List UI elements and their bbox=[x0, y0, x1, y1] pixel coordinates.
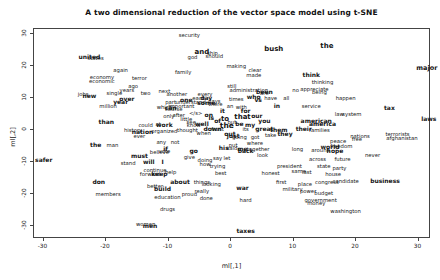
word-label: if bbox=[163, 146, 168, 152]
word-label: should bbox=[206, 55, 224, 60]
word-label: looking bbox=[202, 182, 221, 187]
word-label: the bbox=[320, 42, 333, 49]
x-tick-mark bbox=[105, 238, 106, 241]
y-tick-mark bbox=[30, 33, 33, 34]
word-label: terror bbox=[132, 77, 147, 82]
word-label: bush bbox=[264, 46, 283, 53]
word-label: last bbox=[302, 171, 312, 176]
word-label: organized bbox=[151, 129, 177, 134]
word-label: education bbox=[154, 195, 180, 200]
word-label: drugs bbox=[160, 208, 175, 213]
word-label: afghanistan bbox=[386, 136, 417, 141]
y-tick-mark bbox=[30, 193, 33, 194]
word-label: house bbox=[325, 172, 341, 177]
word-label: think bbox=[303, 72, 320, 78]
word-label: state bbox=[317, 165, 330, 170]
x-tick-label: 10 bbox=[289, 243, 296, 249]
x-tick-mark bbox=[355, 238, 356, 241]
word-label: stand bbox=[121, 161, 136, 166]
word-label: build bbox=[154, 186, 171, 192]
word-label: being bbox=[312, 90, 327, 95]
x-tick-label: 20 bbox=[351, 243, 358, 249]
word-label: tax bbox=[384, 105, 395, 111]
word-label: families bbox=[309, 128, 330, 133]
word-label: done bbox=[200, 196, 213, 201]
word-label: don bbox=[92, 179, 105, 185]
word-label: all bbox=[283, 96, 289, 101]
word-label: military bbox=[282, 188, 302, 193]
word-label: two bbox=[141, 91, 151, 96]
x-axis-label: ml[,1] bbox=[33, 262, 430, 270]
word-label: happen bbox=[336, 96, 356, 101]
x-tick-mark bbox=[230, 238, 231, 241]
word-label: across bbox=[309, 158, 326, 163]
x-tick-mark bbox=[293, 238, 294, 241]
word-label: peace bbox=[330, 139, 346, 144]
word-label: service bbox=[302, 104, 321, 109]
y-tick-mark bbox=[30, 225, 33, 226]
word-label: proud bbox=[182, 192, 197, 197]
word-label: not bbox=[171, 140, 180, 145]
y-tick-label: -20 bbox=[21, 188, 27, 197]
word-label: ever bbox=[133, 134, 145, 139]
word-label: go bbox=[190, 148, 198, 154]
word-label: taxes bbox=[236, 228, 254, 234]
word-label: than bbox=[99, 119, 114, 125]
y-tick-mark bbox=[30, 161, 33, 162]
word-label: ago bbox=[128, 84, 138, 89]
word-label: members bbox=[96, 192, 121, 197]
word-label: laws bbox=[421, 116, 436, 122]
word-label: it bbox=[220, 108, 225, 114]
word-label: let bbox=[223, 157, 230, 162]
y-tick-label: -30 bbox=[21, 220, 27, 229]
word-label: at bbox=[155, 122, 160, 127]
word-label: free bbox=[352, 138, 362, 143]
word-label: man bbox=[107, 143, 119, 148]
word-label: look bbox=[257, 153, 268, 158]
word-label: family bbox=[175, 70, 191, 75]
word-label: honest bbox=[262, 171, 280, 176]
x-tick-label: -30 bbox=[38, 243, 47, 249]
word-label: continue bbox=[143, 168, 166, 173]
x-tick-label: 0 bbox=[228, 243, 232, 249]
word-label: they bbox=[277, 131, 292, 137]
word-label: made bbox=[246, 74, 261, 79]
x-tick-label: -20 bbox=[100, 243, 109, 249]
word-label: have bbox=[264, 96, 277, 101]
word-label: long bbox=[292, 147, 303, 152]
word-label: system bbox=[342, 112, 361, 117]
word-label: around bbox=[311, 149, 330, 154]
word-label: again bbox=[113, 69, 128, 74]
word-label: security bbox=[179, 34, 200, 39]
y-tick-mark bbox=[30, 65, 33, 66]
word-label: that bbox=[234, 113, 250, 120]
y-tick-label: 30 bbox=[21, 29, 27, 36]
word-label: I bbox=[161, 159, 163, 165]
word-label: hard bbox=[240, 198, 252, 203]
word-label: the bbox=[90, 142, 101, 148]
word-label: going bbox=[232, 135, 247, 140]
word-label: new bbox=[82, 93, 96, 99]
word-label: million bbox=[99, 105, 117, 110]
word-label: will bbox=[143, 159, 155, 165]
word-label: give bbox=[184, 156, 195, 161]
word-label: after bbox=[172, 114, 185, 119]
word-label: you bbox=[258, 118, 270, 124]
word-label: states bbox=[88, 56, 104, 61]
word-label: president bbox=[277, 165, 302, 170]
word-label: making bbox=[226, 64, 246, 69]
word-label: its bbox=[242, 127, 248, 132]
word-label: who bbox=[247, 94, 261, 100]
word-label: times bbox=[229, 98, 244, 103]
word-label: war bbox=[236, 185, 249, 191]
y-tick-label: 0 bbox=[21, 127, 27, 131]
word-label: major bbox=[416, 65, 437, 72]
word-label: washington bbox=[330, 209, 361, 214]
word-label: safer bbox=[35, 157, 52, 163]
word-label: economic bbox=[89, 79, 115, 84]
x-tick-label: 30 bbox=[414, 243, 421, 249]
word-label: best bbox=[215, 171, 226, 176]
word-label: say bbox=[213, 157, 222, 162]
word-label: any bbox=[156, 141, 166, 146]
y-tick-label: -10 bbox=[21, 156, 27, 165]
